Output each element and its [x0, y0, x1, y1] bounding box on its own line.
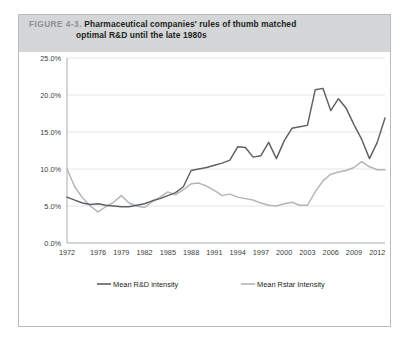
- chart-plot-area: 0.0%5.0%10.0%15.0%20.0%25.0% 19721976197…: [19, 52, 390, 328]
- y-tick-label: 5.0%: [44, 202, 61, 211]
- x-axis-tick-labels: 1972197619791982198519881991199419972000…: [59, 248, 385, 257]
- figure-container: FIGURE 4-3. Pharmaceutical companies' ru…: [18, 14, 391, 327]
- y-axis-tick-labels: 0.0%5.0%10.0%15.0%20.0%25.0%: [40, 54, 61, 248]
- figure-header-line-1: FIGURE 4-3. Pharmaceutical companies' ru…: [29, 19, 382, 30]
- x-tick-label: 1976: [90, 248, 106, 257]
- x-tick-label: 2006: [323, 248, 339, 257]
- y-tick-label: 10.0%: [40, 165, 61, 174]
- figure-number: FIGURE 4-3.: [29, 19, 82, 29]
- figure-header: FIGURE 4-3. Pharmaceutical companies' ru…: [19, 15, 390, 52]
- gridlines-group: [67, 58, 385, 206]
- x-tick-label: 1972: [59, 248, 75, 257]
- x-tick-label: 2012: [369, 248, 385, 257]
- x-tick-label: 1979: [113, 248, 129, 257]
- x-tick-label: 2009: [346, 248, 362, 257]
- figure-title-line-1: Pharmaceutical companies' rules of thumb…: [84, 19, 296, 29]
- x-tick-label: 1982: [136, 248, 152, 257]
- series-line-mean-rd-intensity: [67, 88, 385, 206]
- x-tick-label: 1985: [160, 248, 176, 257]
- x-tick-label: 1994: [230, 248, 246, 257]
- x-tick-label: 1997: [253, 248, 269, 257]
- y-tick-label: 25.0%: [40, 54, 61, 63]
- y-tick-label: 20.0%: [40, 91, 61, 100]
- figure-header-line-2: optimal R&D until the late 1980s: [29, 30, 382, 41]
- legend-label-1: Mean Rstar Intensity: [257, 280, 325, 289]
- x-tick-label: 1991: [206, 248, 222, 257]
- chart-legend: Mean R&D intensityMean Rstar Intensity: [97, 280, 325, 289]
- legend-label-0: Mean R&D intensity: [113, 280, 179, 289]
- y-tick-label: 15.0%: [40, 128, 61, 137]
- figure-title-line-2: optimal R&D until the late 1980s: [76, 30, 207, 40]
- x-tick-label: 2003: [299, 248, 315, 257]
- line-chart: 0.0%5.0%10.0%15.0%20.0%25.0% 19721976197…: [19, 52, 390, 328]
- x-tick-label: 2000: [276, 248, 292, 257]
- y-tick-label: 0.0%: [44, 239, 61, 248]
- x-tick-label: 1988: [183, 248, 199, 257]
